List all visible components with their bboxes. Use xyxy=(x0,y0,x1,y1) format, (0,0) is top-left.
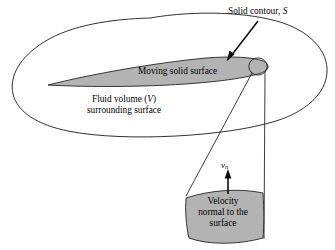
label-solid-contour: Solid contour, S xyxy=(228,6,287,17)
figure-canvas: Solid contour, S Moving solid surface Fl… xyxy=(0,0,335,250)
vn-subscript: n xyxy=(225,163,228,170)
solid-contour-pointer xyxy=(227,21,259,62)
label-velocity-normal: Velocitynormal to thesurface xyxy=(180,196,266,229)
label-vn-symbol: vn xyxy=(221,160,228,171)
velocity-line1: Velocity xyxy=(208,196,239,206)
velocity-line2: normal to the xyxy=(198,207,248,217)
velocity-line3: surface xyxy=(210,218,237,228)
figure-vector-graphics xyxy=(0,0,335,250)
solid-contour-symbol: S xyxy=(283,6,288,16)
label-moving-solid-surface: Moving solid surface xyxy=(138,66,217,77)
fluid-volume-line2: surrounding surface xyxy=(87,105,161,115)
label-fluid-volume: Fluid volume (V)surrounding surface xyxy=(62,94,186,116)
